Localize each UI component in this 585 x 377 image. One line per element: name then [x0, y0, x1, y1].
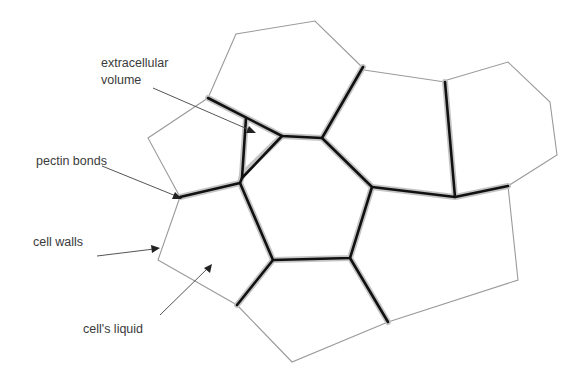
- label-pectin-bonds: pectin bonds: [36, 154, 107, 169]
- pointer-pectin-bonds: [102, 166, 176, 196]
- annotation-pointers: [97, 88, 256, 315]
- cell-diagram: [0, 0, 585, 377]
- label-extracellular: extracellular: [101, 56, 168, 71]
- label-volume: volume: [101, 73, 141, 88]
- arrowhead-cell-walls: [151, 245, 160, 253]
- arrowhead-cells-liquid: [204, 264, 212, 273]
- pectin-bond-halos: [180, 67, 508, 322]
- label-cell-walls: cell walls: [33, 235, 83, 250]
- label-cells-liquid: cell's liquid: [83, 322, 143, 337]
- pointer-cell-walls: [97, 249, 154, 256]
